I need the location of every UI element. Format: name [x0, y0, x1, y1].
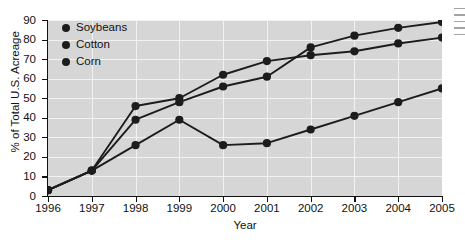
data-point	[263, 57, 271, 65]
chart-legend: SoybeansCottonCorn	[62, 22, 127, 68]
legend-label: Cotton	[76, 39, 110, 51]
data-point	[438, 84, 442, 92]
legend-marker-icon	[62, 24, 70, 32]
y-tick-mark	[42, 196, 47, 197]
data-point	[131, 116, 139, 124]
data-point	[394, 24, 402, 32]
x-tick-label: 2003	[331, 203, 377, 215]
y-tick-mark	[42, 118, 47, 119]
data-point	[394, 39, 402, 47]
x-tick-label: 2000	[200, 203, 246, 215]
x-tick-label: 2004	[375, 203, 421, 215]
data-point	[131, 102, 139, 110]
legend-label: Soybeans	[76, 22, 127, 34]
data-point	[219, 71, 227, 79]
data-point	[438, 34, 442, 42]
y-tick-mark	[42, 176, 47, 177]
data-point	[48, 186, 52, 194]
y-tick-mark	[42, 137, 47, 138]
data-point	[131, 141, 139, 149]
legend-marker-icon	[62, 58, 70, 66]
series-corn	[48, 84, 442, 194]
chart-figure: 0102030405060708090 19961997199819992000…	[0, 0, 465, 243]
x-tick-label: 1998	[113, 203, 159, 215]
x-tick-label: 1999	[156, 203, 202, 215]
data-point	[307, 43, 315, 51]
y-axis-line	[47, 20, 48, 197]
legend-item-corn: Corn	[62, 56, 127, 68]
x-tick-label: 1996	[25, 203, 71, 215]
legend-item-cotton: Cotton	[62, 39, 127, 51]
y-tick-mark	[42, 40, 47, 41]
clipped-margin-text	[454, 8, 465, 48]
data-point	[350, 47, 358, 55]
data-point	[350, 32, 358, 40]
y-tick-mark	[42, 59, 47, 60]
legend-item-soybeans: Soybeans	[62, 22, 127, 34]
x-tick-label: 2005	[419, 203, 465, 215]
data-point	[219, 82, 227, 90]
x-tick-label: 2001	[244, 203, 290, 215]
y-tick-mark	[42, 98, 47, 99]
data-point	[175, 116, 183, 124]
data-point	[350, 112, 358, 120]
y-tick-label: 10	[2, 171, 36, 183]
x-tick-label: 2002	[288, 203, 334, 215]
data-point	[438, 20, 442, 26]
y-tick-mark	[42, 79, 47, 80]
y-tick-mark	[42, 157, 47, 158]
x-tick-label: 1997	[69, 203, 115, 215]
data-point	[307, 125, 315, 133]
data-point	[263, 139, 271, 147]
y-tick-mark	[42, 20, 47, 21]
data-point	[307, 51, 315, 59]
y-tick-label: 0	[2, 191, 36, 203]
legend-marker-icon	[62, 41, 70, 49]
data-point	[394, 98, 402, 106]
data-point	[175, 94, 183, 102]
x-axis-label: Year	[48, 220, 442, 232]
data-point	[219, 141, 227, 149]
y-axis-label: % of Total U.S. Acreage	[10, 12, 22, 172]
x-axis-line	[47, 196, 443, 197]
data-point	[88, 166, 96, 174]
legend-label: Corn	[76, 56, 101, 68]
series-line	[48, 88, 442, 190]
data-point	[263, 73, 271, 81]
